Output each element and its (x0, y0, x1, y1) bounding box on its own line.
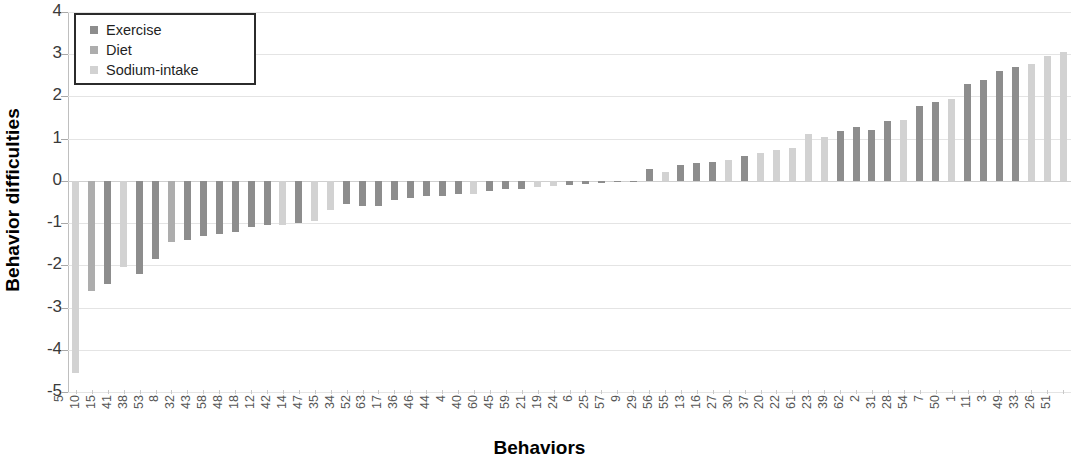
x-tick-mark (570, 390, 571, 394)
x-tick-mark (776, 390, 777, 394)
y-tick-mark (61, 308, 68, 309)
bar (486, 181, 493, 192)
y-tick-mark (61, 12, 68, 13)
bar (884, 121, 891, 181)
x-tick-mark (872, 390, 873, 394)
x-tick-mark (299, 390, 300, 394)
x-tick-mark (538, 390, 539, 394)
bar (534, 181, 541, 187)
x-tick-mark (936, 390, 937, 394)
x-tick-mark (347, 390, 348, 394)
y-tick-label: 0 (18, 170, 62, 190)
y-tick-label: -2 (18, 254, 62, 274)
x-tick-mark (490, 390, 491, 394)
x-tick-mark (315, 390, 316, 394)
legend-label: Sodium-intake (106, 62, 199, 78)
x-tick-mark (999, 390, 1000, 394)
bar (391, 181, 398, 200)
x-tick-mark (920, 390, 921, 394)
bar (1012, 67, 1019, 181)
y-tick-mark (61, 223, 68, 224)
bar (566, 181, 573, 185)
x-tick-mark (203, 390, 204, 394)
legend: ExerciseDietSodium-intake (74, 13, 256, 85)
bar (646, 169, 653, 181)
bar (375, 181, 382, 206)
bar (709, 162, 716, 181)
bar (407, 181, 414, 198)
y-tick-label: -3 (18, 297, 62, 317)
bar (502, 181, 509, 189)
bar (327, 181, 334, 211)
bar (980, 80, 987, 181)
bar (853, 127, 860, 181)
bar (248, 181, 255, 227)
x-tick-mark (251, 390, 252, 394)
bar (996, 71, 1003, 181)
y-tick-mark (61, 181, 68, 182)
x-tick-mark (904, 390, 905, 394)
y-tick-label: 3 (18, 43, 62, 63)
bar (1060, 52, 1067, 181)
legend-label: Diet (106, 42, 132, 58)
y-tick-label: 4 (18, 1, 62, 21)
y-tick-mark (61, 139, 68, 140)
x-tick-mark (792, 390, 793, 394)
bar (343, 181, 350, 204)
x-tick-mark (474, 390, 475, 394)
bar (184, 181, 191, 240)
bar (518, 181, 525, 189)
x-tick-mark (888, 390, 889, 394)
y-tick-label: 1 (18, 128, 62, 148)
x-tick-mark (426, 390, 427, 394)
y-tick-mark (61, 54, 68, 55)
x-tick-mark (983, 390, 984, 394)
x-tick-mark (378, 390, 379, 394)
bar (200, 181, 207, 236)
bar (359, 181, 366, 206)
x-tick-mark (219, 390, 220, 394)
y-tick-mark (61, 96, 68, 97)
x-tick-mark (442, 390, 443, 394)
x-tick-mark (363, 390, 364, 394)
x-tick-mark (92, 390, 93, 394)
bar (630, 181, 637, 182)
x-tick-mark (713, 390, 714, 394)
x-tick-mark (156, 390, 157, 394)
x-tick-mark (522, 390, 523, 394)
x-tick-mark (617, 390, 618, 394)
bar (741, 156, 748, 181)
x-tick-mark (761, 390, 762, 394)
x-tick-mark (1063, 390, 1064, 394)
y-tick-label: -4 (18, 339, 62, 359)
bar (821, 137, 828, 181)
legend-swatch-icon (90, 66, 98, 74)
x-tick-mark (554, 390, 555, 394)
x-tick-mark (840, 390, 841, 394)
bar (598, 181, 605, 183)
legend-swatch-icon (90, 26, 98, 34)
bar (136, 181, 143, 274)
bar (88, 181, 95, 291)
x-tick-mark (187, 390, 188, 394)
x-axis-tick-labels: 5101541385383243584818124214473534526317… (68, 395, 1071, 440)
y-tick-label: -1 (18, 212, 62, 232)
bar (470, 181, 477, 194)
bar (439, 181, 446, 196)
x-tick-mark (697, 390, 698, 394)
bar (232, 181, 239, 232)
bar (311, 181, 318, 221)
x-tick-mark (585, 390, 586, 394)
bar (423, 181, 430, 196)
x-tick-mark (952, 390, 953, 394)
bar (805, 134, 812, 180)
bar (264, 181, 271, 225)
bar (677, 165, 684, 181)
x-tick-mark (649, 390, 650, 394)
bar (693, 163, 700, 181)
x-tick-mark (968, 390, 969, 394)
x-tick-mark (394, 390, 395, 394)
bar (964, 84, 971, 181)
legend-item-diet: Diet (76, 40, 254, 60)
x-tick-mark (681, 390, 682, 394)
